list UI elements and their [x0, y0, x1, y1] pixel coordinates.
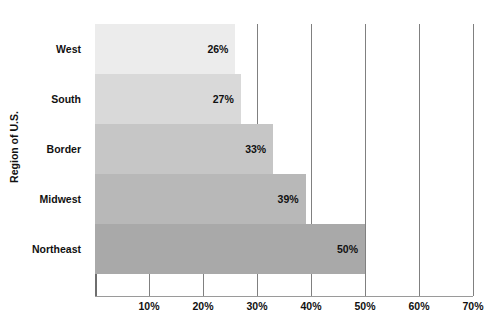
category-label-border: Border — [0, 124, 88, 174]
bar-border: 33% — [95, 124, 273, 174]
xtick-label-30: 30% — [227, 300, 287, 312]
bar-value-label: 27% — [213, 93, 234, 105]
bar-northeast: 50% — [95, 224, 365, 274]
xtick-label-10: 10% — [119, 300, 179, 312]
bar-value-label: 33% — [245, 143, 266, 155]
gridline-50 — [365, 24, 366, 296]
xtick-label-60: 60% — [389, 300, 449, 312]
bar-west: 26% — [95, 24, 235, 74]
plot-area: 26%27%33%39%50% — [95, 24, 473, 296]
bar-midwest: 39% — [95, 174, 306, 224]
xtick-label-20: 20% — [173, 300, 233, 312]
bar-chart: Region of U.S. 26%27%33%39%50% WestSouth… — [0, 0, 491, 324]
bar-south: 27% — [95, 74, 241, 124]
category-label-south: South — [0, 74, 88, 124]
category-label-northeast: Northeast — [0, 224, 88, 274]
gridline-60 — [419, 24, 420, 296]
bar-value-label: 39% — [278, 193, 299, 205]
bar-value-label: 26% — [207, 43, 228, 55]
category-label-west: West — [0, 24, 88, 74]
category-label-midwest: Midwest — [0, 174, 88, 224]
bar-value-label: 50% — [337, 243, 358, 255]
x-axis-line — [95, 296, 473, 297]
xtick-label-40: 40% — [281, 300, 341, 312]
xtick-label-70: 70% — [443, 300, 491, 312]
gridline-70 — [473, 24, 474, 296]
xtick-label-50: 50% — [335, 300, 395, 312]
chart-title — [0, 0, 491, 3]
